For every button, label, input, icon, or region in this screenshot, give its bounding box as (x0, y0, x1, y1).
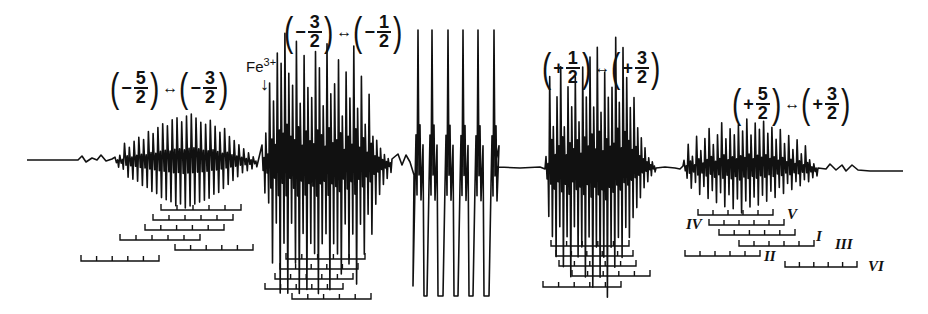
stick-bar (543, 281, 621, 287)
stick-group-m5-m3 (81, 204, 253, 261)
stick-bar (698, 209, 773, 215)
stick-bar (709, 219, 784, 225)
site-label-ii: II (764, 248, 776, 265)
open-paren: ( (801, 84, 810, 124)
stick-bar (685, 250, 760, 256)
site-label-iii: III (835, 236, 853, 253)
stick-bar (120, 234, 200, 240)
transition-label-p5-p3: (+52)↔(+32) (730, 84, 852, 124)
fe-label: Fe (246, 58, 264, 75)
fraction: −12 (365, 14, 392, 50)
fe-charge: 3+ (264, 56, 277, 68)
site-label-vi: VI (868, 258, 884, 275)
stick-bar (153, 214, 233, 220)
down-arrow-icon: ↓ (260, 75, 276, 93)
stick-bar (265, 283, 343, 289)
stick-bar (286, 253, 365, 259)
fe3-impurity-marker: Fe3+ ↓ (246, 56, 276, 93)
transition-label-m5-m3: (−52)↔(−32) (108, 68, 230, 108)
double-arrow-icon: ↔ (594, 59, 608, 77)
close-paren: ) (772, 84, 781, 124)
fraction: +12 (553, 50, 580, 86)
transition-label-p1-p3: (+12)↔(+32) (540, 48, 662, 88)
transition-label-m3-m1: (−32)↔(−12) (282, 12, 404, 52)
open-paren: ( (110, 68, 119, 108)
close-paren: ) (841, 84, 850, 124)
site-label-iv: IV (686, 216, 702, 233)
stick-bar (81, 255, 159, 261)
stick-bar (785, 261, 857, 267)
stick-bar (145, 224, 224, 230)
close-paren: ) (324, 12, 333, 52)
double-arrow-icon: ↔ (784, 95, 798, 113)
stick-bar (572, 270, 650, 276)
fraction: −32 (191, 70, 218, 106)
fraction: −32 (295, 14, 322, 50)
close-paren: ) (219, 68, 228, 108)
fraction: +32 (623, 50, 650, 86)
double-arrow-icon: ↔ (162, 79, 176, 97)
epr-spectrum-figure (0, 0, 928, 314)
double-arrow-icon: ↔ (336, 23, 350, 41)
fraction: +32 (813, 86, 840, 122)
site-label-i: I (816, 228, 822, 245)
fraction: −52 (121, 70, 148, 106)
close-paren: ) (651, 48, 660, 88)
stick-bar (739, 240, 814, 246)
stick-bar (175, 244, 253, 250)
open-paren: ( (611, 48, 620, 88)
stick-bar (719, 229, 795, 235)
close-paren: ) (582, 48, 591, 88)
open-paren: ( (732, 84, 741, 124)
open-paren: ( (284, 12, 293, 52)
site-label-v: V (787, 206, 797, 223)
open-paren: ( (179, 68, 188, 108)
close-paren: ) (393, 12, 402, 52)
open-paren: ( (353, 12, 362, 52)
open-paren: ( (542, 48, 551, 88)
stick-bar (161, 204, 241, 210)
stick-bar (292, 293, 371, 299)
fraction: +52 (743, 86, 770, 122)
close-paren: ) (150, 68, 159, 108)
